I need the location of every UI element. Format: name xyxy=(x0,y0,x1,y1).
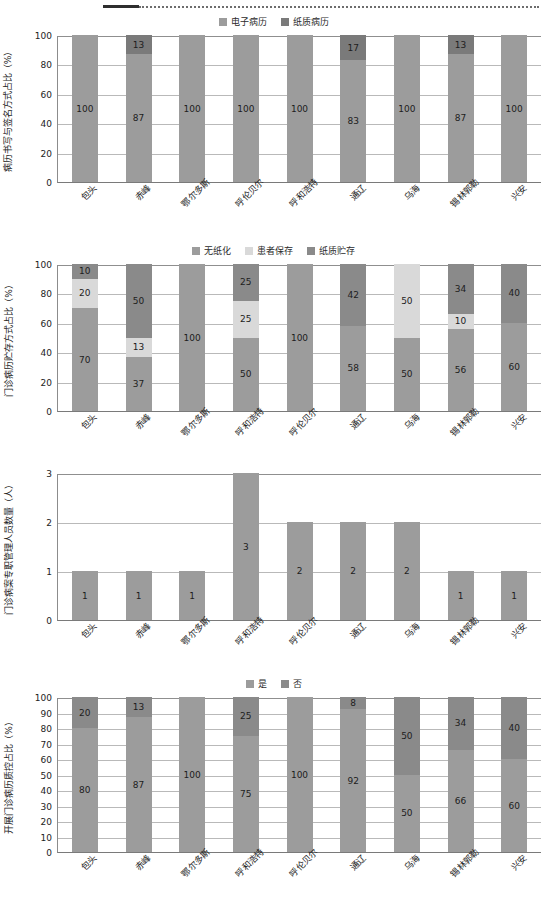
bar-segment[interactable]: 60 xyxy=(501,323,527,411)
bar-segment[interactable]: 13 xyxy=(448,35,474,54)
bar-segment[interactable]: 50 xyxy=(394,264,420,338)
bar-segment[interactable]: 25 xyxy=(233,264,259,301)
bar[interactable]: 3 xyxy=(233,473,259,620)
bar[interactable]: 100 xyxy=(179,264,205,411)
legend-item[interactable]: 患者保存 xyxy=(245,245,293,257)
bar-segment[interactable]: 20 xyxy=(72,279,98,308)
bar-segment[interactable]: 1 xyxy=(448,571,474,620)
bar-segment[interactable]: 100 xyxy=(287,35,313,182)
bar-segment[interactable]: 100 xyxy=(72,35,98,182)
legend-item[interactable]: 是 xyxy=(246,678,267,690)
bar-segment[interactable]: 100 xyxy=(179,697,205,852)
bar-segment[interactable]: 87 xyxy=(448,54,474,182)
bar[interactable]: 5050 xyxy=(394,697,420,852)
bar-segment[interactable]: 20 xyxy=(72,697,98,728)
bar-segment[interactable]: 10 xyxy=(448,314,474,329)
bar-segment[interactable]: 1 xyxy=(72,571,98,620)
bar-segment[interactable]: 40 xyxy=(501,264,527,323)
legend-item[interactable]: 无纸化 xyxy=(192,245,231,257)
bar[interactable]: 100 xyxy=(501,35,527,182)
bar[interactable]: 1387 xyxy=(126,35,152,182)
bar-segment[interactable]: 70 xyxy=(72,308,98,411)
bar[interactable]: 1387 xyxy=(126,697,152,852)
bar-segment[interactable]: 25 xyxy=(233,697,259,736)
bar[interactable]: 4060 xyxy=(501,697,527,852)
bar-segment[interactable]: 10 xyxy=(72,264,98,279)
bar-segment[interactable]: 13 xyxy=(126,35,152,54)
bar[interactable]: 1 xyxy=(501,571,527,620)
bar[interactable]: 2 xyxy=(287,522,313,620)
bar-segment[interactable]: 50 xyxy=(394,775,420,853)
bar[interactable]: 5050 xyxy=(394,264,420,411)
bar-segment[interactable]: 83 xyxy=(340,60,366,182)
bar-segment[interactable]: 58 xyxy=(340,326,366,411)
bar-segment[interactable]: 56 xyxy=(448,329,474,411)
bar-segment[interactable]: 2 xyxy=(394,522,420,620)
bar-segment[interactable]: 42 xyxy=(340,264,366,326)
legend-item[interactable]: 电子病历 xyxy=(219,16,267,28)
bar[interactable]: 1 xyxy=(126,571,152,620)
bar-segment[interactable]: 100 xyxy=(233,35,259,182)
bar-segment[interactable]: 87 xyxy=(126,54,152,182)
bar-segment[interactable]: 100 xyxy=(287,697,313,852)
bar-segment[interactable]: 8 xyxy=(340,697,366,709)
bar[interactable]: 100 xyxy=(287,264,313,411)
legend-item[interactable]: 否 xyxy=(281,678,302,690)
bar[interactable]: 100 xyxy=(287,35,313,182)
bar[interactable]: 2080 xyxy=(72,697,98,852)
bar-segment[interactable]: 40 xyxy=(501,697,527,759)
bar-segment[interactable]: 37 xyxy=(126,357,152,411)
bar-segment[interactable]: 75 xyxy=(233,736,259,852)
bar-segment[interactable]: 50 xyxy=(394,697,420,775)
bar[interactable]: 2 xyxy=(394,522,420,620)
bar-segment[interactable]: 100 xyxy=(287,264,313,411)
legend-item[interactable]: 纸质贮存 xyxy=(307,245,355,257)
bar[interactable]: 1 xyxy=(179,571,205,620)
bar-segment[interactable]: 50 xyxy=(233,338,259,412)
bar[interactable]: 1783 xyxy=(340,35,366,182)
bar[interactable]: 102070 xyxy=(72,264,98,411)
bar-segment[interactable]: 100 xyxy=(179,35,205,182)
bar[interactable]: 2575 xyxy=(233,697,259,852)
bar-segment[interactable]: 13 xyxy=(126,697,152,717)
bar-segment[interactable]: 2 xyxy=(340,522,366,620)
bar-segment[interactable]: 50 xyxy=(126,264,152,338)
bar-segment[interactable]: 25 xyxy=(233,301,259,338)
bar-segment[interactable]: 3 xyxy=(233,473,259,620)
bar-segment[interactable]: 1 xyxy=(179,571,205,620)
bar[interactable]: 100 xyxy=(179,697,205,852)
bar-segment[interactable]: 66 xyxy=(448,750,474,852)
bar-segment[interactable]: 100 xyxy=(501,35,527,182)
bar-segment[interactable]: 50 xyxy=(394,338,420,412)
bar[interactable]: 4258 xyxy=(340,264,366,411)
legend-item[interactable]: 纸质病历 xyxy=(281,16,329,28)
bar[interactable]: 1387 xyxy=(448,35,474,182)
bar-segment[interactable]: 2 xyxy=(287,522,313,620)
bar[interactable]: 100 xyxy=(233,35,259,182)
bar-segment[interactable]: 34 xyxy=(448,264,474,314)
bar[interactable]: 341056 xyxy=(448,264,474,411)
bar-segment[interactable]: 34 xyxy=(448,697,474,750)
bar-segment[interactable]: 100 xyxy=(394,35,420,182)
bar-segment[interactable]: 87 xyxy=(126,717,152,852)
bar-segment[interactable]: 60 xyxy=(501,759,527,852)
bar-segment[interactable]: 92 xyxy=(340,709,366,852)
bar[interactable]: 3466 xyxy=(448,697,474,852)
bar-segment[interactable]: 13 xyxy=(126,338,152,357)
bar-segment[interactable]: 80 xyxy=(72,728,98,852)
bar[interactable]: 252550 xyxy=(233,264,259,411)
bar-segment[interactable]: 17 xyxy=(340,35,366,60)
bar[interactable]: 100 xyxy=(394,35,420,182)
bar[interactable]: 2 xyxy=(340,522,366,620)
bar[interactable]: 100 xyxy=(287,697,313,852)
bar[interactable]: 1 xyxy=(448,571,474,620)
bar-segment[interactable]: 1 xyxy=(501,571,527,620)
bar-segment[interactable]: 1 xyxy=(126,571,152,620)
bar[interactable]: 4060 xyxy=(501,264,527,411)
bar-segment[interactable]: 100 xyxy=(179,264,205,411)
bar[interactable]: 100 xyxy=(72,35,98,182)
bar[interactable]: 892 xyxy=(340,697,366,852)
bar[interactable]: 501337 xyxy=(126,264,152,411)
bar[interactable]: 1 xyxy=(72,571,98,620)
bar[interactable]: 100 xyxy=(179,35,205,182)
